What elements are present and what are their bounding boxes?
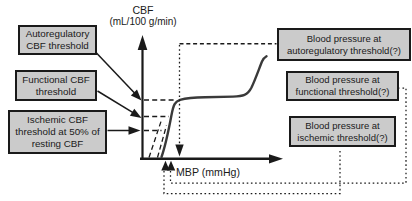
box-bp-autoregulatory-threshold: Blood pressure at autoregulatory thresho…	[277, 28, 411, 61]
box-label-line: Autoregulatory	[26, 28, 90, 40]
box-label-line: ischemic threshold(?)	[297, 132, 387, 144]
box-label-line: resting CBF	[32, 138, 84, 150]
box-bp-functional-threshold: Blood pressure at functional threshold(?…	[286, 71, 399, 101]
arrowhead-ischemic-threshold-icon	[129, 126, 141, 135]
box-label-line: Blood pressure at	[307, 33, 381, 45]
box-label-line: CBF threshold	[26, 40, 89, 52]
y-axis-label: CBF (mL/100 g/min)	[96, 4, 190, 28]
y-axis-label-line1: CBF	[96, 4, 190, 16]
up-arrowhead-functional-mbp-icon	[167, 161, 175, 171]
x-axis-arrowhead-icon	[269, 154, 283, 163]
arrowhead-functional-threshold-icon	[130, 109, 142, 118]
box-label-line: functional threshold(?)	[296, 86, 390, 98]
arrow-autoregulatory-threshold	[97, 53, 135, 93]
box-functional-cbf-threshold: Functional CBF threshold	[15, 70, 97, 101]
box-autoregulatory-cbf-threshold: Autoregulatory CBF threshold	[18, 25, 97, 55]
box-label-line: threshold	[36, 86, 76, 98]
y-axis-label-line2: (mL/100 g/min)	[96, 16, 190, 28]
down-arrowhead-autoregulatory-mbp-icon	[175, 145, 183, 157]
box-label-line: threshold at 50% of	[15, 126, 99, 138]
box-ischemic-cbf-threshold: Ischemic CBF threshold at 50% of resting…	[8, 110, 107, 154]
dashed-curve-extension-left	[149, 122, 161, 158]
autoregulation-diagram: CBF (mL/100 g/min) MBP (mmHg) Autoregula…	[0, 0, 412, 201]
box-label-line: Blood pressure at	[305, 74, 379, 86]
box-label-line: autoregulatory threshold(?)	[287, 45, 401, 57]
box-label-line: Blood pressure at	[305, 120, 379, 132]
box-label-line: Ischemic CBF	[27, 114, 88, 126]
y-axis-arrowhead-icon	[138, 35, 148, 50]
autoregulation-curve	[162, 56, 267, 157]
box-label-line: Functional CBF	[22, 74, 90, 86]
x-axis-label: MBP (mmHg)	[176, 166, 240, 178]
box-bp-ischemic-threshold: Blood pressure at ischemic threshold(?)	[289, 116, 396, 147]
